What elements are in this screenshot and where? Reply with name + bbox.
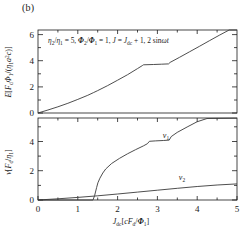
x-tick-3: 3 (155, 204, 160, 214)
figure-panel-b: (b) (0, 0, 249, 229)
figure-svg: 0 2 4 6 E[FdΦ1/(η1a2c)] η2/η1 = 5, Φ2/Φ1… (0, 0, 249, 229)
upper-y-ticks (38, 35, 237, 113)
lower-panel: 0 2 4 v[Fd/η1] 0 1 2 3 4 5 Jdc[cFd/Φ1] (4, 118, 240, 227)
curve-label-v1: v1 (163, 131, 170, 141)
upper-y-tick-2: 2 (30, 82, 35, 92)
lower-y-ticks (38, 127, 237, 200)
lower-plot-frame (38, 118, 237, 200)
x-tick-1: 1 (76, 204, 81, 214)
lower-y-tick-4: 4 (30, 137, 35, 147)
parameter-annotation: η2/η1 = 5, Φ2/Φ1 = 1, J = Jdc + 1, 2 sin… (48, 36, 170, 46)
x-axis-title: Jdc[cFd/Φ1] (113, 217, 150, 227)
x-tick-0: 0 (36, 204, 41, 214)
upper-y-tick-0: 0 (30, 108, 35, 118)
upper-y-tick-4: 4 (30, 56, 35, 66)
lower-x-ticks (38, 118, 237, 200)
upper-x-ticks (58, 30, 217, 34)
x-tick-2: 2 (115, 204, 120, 214)
upper-panel: 0 2 4 6 E[FdΦ1/(η1a2c)] η2/η1 = 5, Φ2/Φ1… (4, 30, 237, 118)
lower-y-tick-0: 0 (30, 195, 35, 205)
x-tick-5: 5 (235, 204, 240, 214)
svg-text:v[Fd/η1]: v[Fd/η1] (4, 149, 14, 175)
curve-label-v2: v2 (179, 173, 186, 183)
x-tick-4: 4 (195, 204, 200, 214)
upper-y-axis-title: E[FdΦ1/(η1a2c)] (4, 46, 14, 98)
curve-v1 (38, 118, 237, 200)
lower-y-tick-2: 2 (30, 166, 35, 176)
lower-y-axis-title: v[Fd/η1] (4, 149, 14, 175)
panel-label: (b) (22, 2, 34, 13)
upper-y-tick-6: 6 (30, 30, 35, 40)
svg-text:E[FdΦ1/(η1a2c)]: E[FdΦ1/(η1a2c)] (4, 46, 14, 98)
